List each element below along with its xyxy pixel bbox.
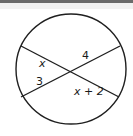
label-lower-left-segment: 3 bbox=[36, 76, 43, 87]
circle bbox=[16, 14, 126, 124]
label-lower-right-text: x + 2 bbox=[74, 85, 104, 98]
label-upper-right-segment: 4 bbox=[82, 50, 89, 61]
circle-chords-diagram bbox=[0, 0, 133, 136]
label-lower-right-segment: x + 2 bbox=[74, 86, 104, 97]
label-upper-left-segment: x bbox=[39, 58, 46, 69]
